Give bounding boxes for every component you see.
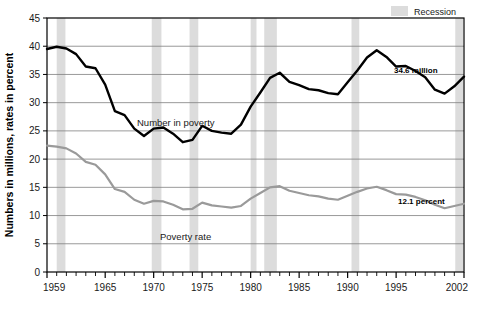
x-tick-label: 1959 — [43, 282, 66, 293]
x-tick-label: 1970 — [143, 282, 166, 293]
x-tick-label: 1980 — [240, 282, 263, 293]
y-tick-label: 10 — [29, 210, 41, 221]
x-tick-label: 1995 — [385, 282, 408, 293]
x-tick-label: 2002 — [446, 282, 469, 293]
y-axis-title: Numbers in millions, rates in percent — [3, 52, 15, 237]
recession-band — [57, 18, 66, 272]
x-tick-label: 1990 — [337, 282, 360, 293]
y-tick-label: 25 — [29, 125, 41, 136]
recession-band — [264, 18, 277, 272]
recession-legend-label: Recession — [414, 7, 456, 17]
x-tick-label: 1985 — [288, 282, 311, 293]
recession-band — [352, 18, 360, 272]
x-tick-label: 1975 — [191, 282, 214, 293]
recession-band — [251, 18, 257, 272]
y-tick-label: 0 — [34, 267, 40, 278]
x-axis-group: 195919651970197519801985199019952002 — [43, 272, 468, 293]
y-axis-group: 051015202530354045 — [29, 13, 47, 278]
recession-legend-swatch — [391, 6, 408, 16]
y-tick-label: 5 — [34, 238, 40, 249]
y-tick-label: 30 — [29, 97, 41, 108]
y-tick-label: 45 — [29, 13, 41, 24]
y-tick-label: 15 — [29, 182, 41, 193]
y-tick-label: 40 — [29, 41, 41, 52]
recession-band — [455, 18, 463, 272]
number-end-annotation: 34.6 million — [394, 66, 438, 75]
poverty-chart-figure: 051015202530354045 195919651970197519801… — [0, 0, 480, 310]
rate-end-annotation: 12.1 percent — [398, 197, 445, 206]
y-tick-label: 20 — [29, 154, 41, 165]
number-in-poverty-label: Number in poverty — [137, 117, 215, 128]
y-tick-label: 35 — [29, 69, 41, 80]
chart-canvas: 051015202530354045 195919651970197519801… — [0, 0, 480, 310]
x-tick-label: 1965 — [94, 282, 117, 293]
poverty-rate-label: Poverty rate — [160, 231, 211, 242]
